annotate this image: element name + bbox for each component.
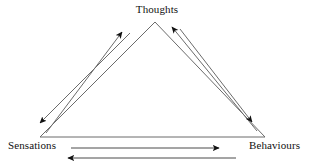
cbt-triangle-diagram: Thoughts Sensations Behaviours [0, 0, 314, 168]
edge-thoughts-behaviours [172, 27, 257, 131]
node-label-sensations: Sensations [8, 139, 56, 151]
node-label-thoughts: Thoughts [0, 3, 314, 15]
arrow-behaviours-to-thoughts [172, 27, 257, 131]
arrow-sensations-to-thoughts [46, 32, 122, 133]
triangle-outline [40, 22, 265, 137]
node-label-behaviours: Behaviours [249, 139, 300, 151]
edge-sensations-behaviours [68, 148, 236, 158]
arrow-thoughts-to-sensations [40, 33, 130, 123]
arrow-thoughts-to-behaviours [180, 29, 252, 122]
edge-sensations-thoughts [40, 32, 130, 133]
triangle-outline-path [40, 22, 265, 137]
